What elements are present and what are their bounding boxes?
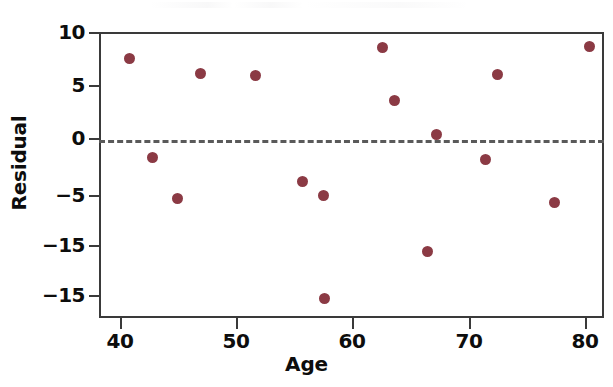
y-tick-label: 10 (33, 20, 85, 44)
x-tick-mark (352, 318, 354, 329)
data-point (318, 190, 329, 201)
scan-artifact (150, 2, 470, 8)
plot-area (99, 32, 604, 318)
y-tick-label: −5 (33, 183, 85, 207)
data-point (431, 129, 442, 140)
data-point (297, 176, 308, 187)
x-tick-label: 60 (322, 329, 382, 353)
x-tick-mark (585, 318, 587, 329)
y-tick-label: 5 (33, 73, 85, 97)
data-point (389, 95, 400, 106)
data-point (584, 41, 595, 52)
x-tick-mark (120, 318, 122, 329)
y-axis-tick-labels: 1050−5−15−15 (30, 0, 85, 387)
x-axis-title: Age (0, 352, 613, 376)
data-point (422, 246, 433, 257)
data-point (480, 154, 491, 165)
data-point (195, 68, 206, 79)
x-tick-label: 70 (439, 329, 499, 353)
x-tick-label: 50 (206, 329, 266, 353)
data-point (319, 293, 330, 304)
scatter-plot-figure: Residual 1050−5−15−15 4050607080 Age (0, 0, 613, 387)
x-tick-mark (236, 318, 238, 329)
data-point (250, 70, 261, 81)
x-tick-label: 40 (90, 329, 150, 353)
data-point (549, 197, 560, 208)
y-tick-label: 0 (33, 126, 85, 150)
x-tick-mark (469, 318, 471, 329)
data-point (172, 193, 183, 204)
zero-reference-line (99, 140, 604, 143)
x-tick-label: 80 (555, 329, 613, 353)
data-point (124, 53, 135, 64)
data-point (147, 152, 158, 163)
y-tick-label: −15 (33, 283, 85, 307)
y-tick-label: −15 (33, 233, 85, 257)
data-point (492, 69, 503, 80)
data-point (377, 42, 388, 53)
y-axis-title-text: Residual (7, 115, 31, 210)
